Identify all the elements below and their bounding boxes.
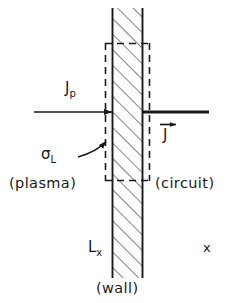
wall-position-label: Lx [88,240,102,255]
circuit-region-label: (circuit) [155,176,214,191]
lx-subscript: x [96,247,102,258]
surface-charge-label: σL [41,147,56,162]
j-symbol: J [163,126,167,144]
jp-current-label: Jp [65,81,76,96]
plasma-region-label: (plasma) [9,176,76,191]
j-current-label: J [163,128,167,143]
x-axis-label: x [203,241,211,254]
wall-boundary-schematic: Jp J σL (plasma) (circuit) Lx x (wall) [0,0,234,303]
wall-hatched-region [112,8,143,278]
wall-region-label: (wall) [96,281,139,296]
sigma-subscript: L [51,154,57,165]
jp-subscript: p [69,88,75,99]
sigma-leader-arrow [78,142,106,158]
diagram-canvas [0,0,234,303]
sigma-symbol: σ [41,145,51,163]
